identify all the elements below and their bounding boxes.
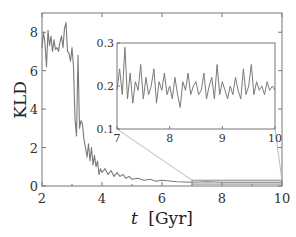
y-tick-label: 6 — [30, 64, 38, 79]
y-tick-label: 2 — [30, 141, 38, 156]
x-tick-label: 2 — [38, 191, 46, 206]
inset-y-tick-label: 0.2 — [97, 80, 115, 93]
inset-x-tick-label: 7 — [114, 132, 121, 145]
x-axis-unit: [Gyr] — [148, 208, 193, 228]
x-tick-label: 4 — [98, 191, 106, 206]
inset-connector-lines — [117, 129, 282, 180]
kld-chart: 24681002468 789100.10.20.3 KLD t [Gyr] — [0, 0, 296, 237]
inset-x-tick-label: 10 — [268, 132, 282, 145]
chart-canvas: 24681002468 789100.10.20.3 KLD t [Gyr] — [0, 0, 296, 237]
inset-x-tick-label: 9 — [219, 132, 226, 145]
inset-y-tick-label: 0.1 — [97, 123, 115, 136]
x-tick-label: 10 — [274, 191, 291, 206]
inset-y-tick-label: 0.3 — [97, 37, 115, 50]
y-tick-label: 0 — [30, 179, 38, 194]
y-tick-label: 4 — [30, 102, 38, 117]
x-tick-label: 8 — [218, 191, 226, 206]
inset-background — [117, 43, 275, 129]
x-axis-title: t [Gyr] — [131, 208, 193, 228]
x-axis-variable: t — [131, 208, 138, 228]
inset-x-tick-label: 8 — [166, 132, 173, 145]
y-axis-title: KLD — [10, 81, 30, 119]
y-tick-label: 8 — [30, 25, 38, 40]
x-tick-label: 6 — [158, 191, 166, 206]
connector-left — [117, 129, 192, 180]
